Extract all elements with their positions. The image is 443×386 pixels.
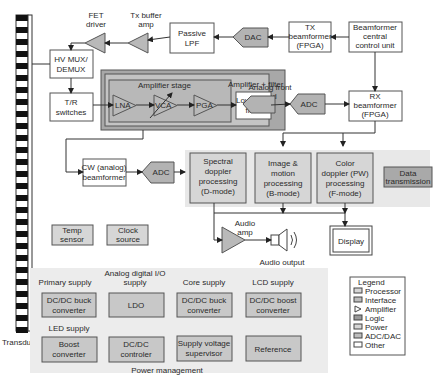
cw-beamformer: CW (analog) beamformer [82, 159, 127, 186]
svg-text:Core supply: Core supply [183, 278, 226, 287]
display: Display [330, 226, 372, 255]
svg-text:Boost: Boost [59, 340, 80, 349]
svg-text:DC/DC buck: DC/DC buck [182, 296, 227, 305]
svg-text:supply: supply [123, 278, 146, 287]
svg-text:sensor: sensor [60, 235, 84, 244]
svg-text:LCD supply: LCD supply [252, 278, 293, 287]
legend-item-label: Interface [365, 296, 397, 305]
svg-text:TX: TX [305, 23, 316, 32]
rx-beamformer: RX beamformer (FPGA) [349, 91, 402, 121]
legend: Legend ProcessorInterfaceAmplifierLogicP… [350, 277, 405, 355]
svg-text:amp: amp [237, 228, 253, 237]
svg-text:Analog digital I/O: Analog digital I/O [105, 269, 166, 278]
cw-adc: ADC [142, 162, 174, 183]
legend-item-label: Other [365, 341, 385, 350]
power-management: Primary supply DC/DC buck converter Anal… [30, 268, 328, 375]
svg-text:DC/DC boost: DC/DC boost [249, 296, 297, 305]
svg-text:DC/DC: DC/DC [123, 340, 149, 349]
svg-text:converter: converter [187, 306, 221, 315]
svg-text:(F-mode): (F-mode) [329, 189, 362, 198]
svg-text:controler: controler [120, 350, 151, 359]
svg-text:transmission: transmission [386, 177, 431, 186]
svg-text:supervisor: supervisor [186, 349, 223, 358]
legend-swatch-icon [354, 342, 362, 347]
svg-text:Passive: Passive [178, 29, 207, 38]
svg-text:(FPGA): (FPGA) [296, 41, 323, 50]
legend-item-label: Power [365, 323, 388, 332]
svg-text:source: source [116, 235, 141, 244]
hv-mux-demux: HV MUX/ DEMUX [50, 50, 93, 78]
clock-source: Clock source [107, 225, 148, 245]
speaker-icon: Audio output [260, 229, 306, 267]
svg-text:Legend: Legend [358, 278, 385, 287]
svg-text:Beamformer: Beamformer [353, 23, 397, 32]
fet-driver: FET driver [85, 11, 106, 53]
svg-text:processing: processing [199, 177, 238, 186]
svg-text:Audio: Audio [235, 219, 256, 228]
svg-text:DC/DC buck: DC/DC buck [47, 296, 92, 305]
svg-text:FET: FET [88, 11, 103, 20]
legend-item-label: ADC/DAC [365, 332, 401, 341]
svg-text:Temp: Temp [62, 226, 82, 235]
svg-text:Color: Color [335, 159, 354, 168]
svg-text:DEMUX: DEMUX [57, 65, 87, 74]
svg-text:ADC: ADC [301, 100, 318, 109]
svg-text:beamformer: beamformer [82, 173, 125, 182]
ultrasound-block-diagram: Transducer FET driver Tx buffer amp Pass… [0, 0, 443, 386]
svg-text:HV MUX/: HV MUX/ [54, 55, 88, 64]
svg-text:ADC: ADC [153, 168, 170, 177]
legend-swatch-icon [354, 315, 362, 320]
svg-text:processing: processing [326, 179, 365, 188]
svg-text:Amplifier + filter: Amplifier + filter [228, 80, 284, 89]
dac: DAC [233, 28, 268, 47]
svg-text:Audio output: Audio output [260, 258, 306, 267]
legend-item-label: Processor [365, 287, 401, 296]
svg-text:beamformer: beamformer [288, 32, 331, 41]
svg-text:Spectral: Spectral [203, 157, 233, 166]
svg-text:amp: amp [138, 20, 154, 29]
rx-adc: ADC [290, 94, 325, 114]
svg-text:RX: RX [369, 92, 381, 101]
passive-lpf: Passive LPF [170, 23, 214, 53]
tx-buffer-amp: Tx buffer amp [128, 11, 162, 53]
svg-text:Reference: Reference [255, 345, 292, 354]
svg-text:Amplifier stage: Amplifier stage [138, 81, 191, 90]
data-transmission: Data transmission [384, 167, 432, 187]
svg-text:CW (analog): CW (analog) [82, 163, 127, 172]
tr-switches: T/R switches [50, 93, 93, 121]
legend-swatch-icon [354, 297, 362, 302]
svg-text:driver: driver [86, 20, 106, 29]
svg-text:doppler: doppler [205, 167, 232, 176]
analog-front-end: Analog front end Amplifier + filter Ampl… [101, 70, 292, 130]
svg-text:Supply voltage: Supply voltage [178, 339, 231, 348]
svg-text:(FPGA): (FPGA) [361, 110, 388, 119]
svg-text:motion: motion [271, 169, 295, 178]
svg-text:Tx buffer: Tx buffer [130, 11, 162, 20]
svg-text:processing: processing [264, 179, 303, 188]
central-control-unit: Beamformer central control unit [349, 22, 402, 52]
svg-text:central: central [363, 32, 387, 41]
svg-text:LDO: LDO [128, 301, 144, 310]
svg-text:doppler (PW): doppler (PW) [321, 169, 368, 178]
svg-text:(D-mode): (D-mode) [201, 187, 235, 196]
svg-text:LNA: LNA [115, 101, 131, 110]
svg-text:switches: switches [56, 108, 87, 117]
svg-text:DAC: DAC [245, 33, 262, 42]
legend-swatch-icon [354, 288, 362, 293]
svg-text:Display: Display [338, 237, 364, 246]
svg-text:Clock: Clock [118, 226, 139, 235]
temp-sensor: Temp sensor [52, 225, 93, 245]
legend-swatch-icon [354, 324, 362, 329]
svg-text:PGA: PGA [196, 101, 214, 110]
legend-item-label: Logic [365, 314, 384, 323]
legend-swatch-icon [354, 333, 362, 338]
svg-text:(B-mode): (B-mode) [266, 189, 300, 198]
audio-amp: Audio amp [222, 219, 256, 253]
svg-text:Image &: Image & [268, 159, 298, 168]
svg-text:Power management: Power management [131, 366, 203, 375]
svg-text:converter: converter [52, 350, 86, 359]
tx-beamformer: TX beamformer (FPGA) [288, 22, 331, 52]
svg-text:LPF: LPF [185, 39, 200, 48]
svg-text:beamformer: beamformer [353, 101, 396, 110]
svg-text:Primary supply: Primary supply [39, 278, 92, 287]
